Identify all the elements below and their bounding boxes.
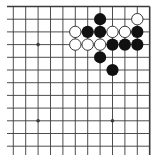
star-point-icon: [36, 43, 40, 47]
star-point-icon: [111, 119, 115, 123]
black-stone[interactable]: [119, 39, 131, 51]
black-stone[interactable]: [131, 39, 143, 51]
star-point-icon: [36, 119, 40, 123]
black-stone[interactable]: [131, 26, 143, 38]
white-stone[interactable]: [107, 26, 118, 37]
stones-layer: [70, 13, 144, 76]
black-stone[interactable]: [106, 64, 118, 76]
go-board[interactable]: Go board diagram — top-right corner: [0, 0, 154, 155]
white-stone[interactable]: [132, 14, 143, 25]
black-stone[interactable]: [106, 39, 118, 51]
black-stone[interactable]: [82, 26, 94, 38]
white-stone[interactable]: [70, 26, 81, 37]
black-stone[interactable]: [94, 26, 106, 38]
board-grid[interactable]: [0, 0, 154, 155]
black-stone[interactable]: [94, 13, 106, 25]
white-stone[interactable]: [70, 39, 81, 50]
white-stone[interactable]: [94, 39, 105, 50]
white-stone[interactable]: [119, 26, 130, 37]
black-stone[interactable]: [94, 51, 106, 63]
white-stone[interactable]: [82, 39, 93, 50]
